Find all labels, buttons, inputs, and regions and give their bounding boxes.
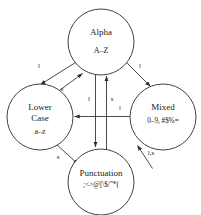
node-lower-case-title-line2: Case	[31, 113, 49, 123]
edge-punctuation-to-alpha: s	[107, 76, 114, 150]
edge-alpha-to-punctuation-label: l	[88, 95, 90, 103]
edge-alpha-to-lower-case-line	[41, 63, 76, 85]
edge-alpha-to-lower-case-label: l	[38, 62, 40, 70]
edge-alpha-to-lower-case: l	[38, 62, 75, 85]
node-alpha-charset: A–Z	[94, 46, 109, 55]
node-lower-case-charset: a–z	[34, 127, 46, 136]
edge-alpha-to-mixed-label: l	[139, 62, 141, 70]
edge-lower-case-to-punctuation-label: s	[57, 153, 60, 161]
node-lower-case[interactable]: Lower Case a–z	[7, 84, 73, 150]
edge-alpha-to-punctuation: l	[88, 75, 95, 147]
node-mixed-charset: 0–9, #$%=	[147, 117, 179, 125]
edge-punctuation-to-mixed-label: l,s	[148, 149, 155, 157]
edge-punctuation-to-mixed: l,s	[138, 146, 155, 169]
edge-mixed-to-lower-case-label: l	[119, 104, 121, 112]
node-alpha-title: Alpha	[90, 27, 112, 37]
node-punctuation[interactable]: Punctuation ;<>@[\$/"*(	[68, 149, 134, 215]
state-diagram-canvas: l s l l s l s	[0, 0, 201, 215]
node-mixed[interactable]: Mixed 0–9, #$%=	[130, 84, 196, 150]
edge-punctuation-to-alpha-label: s	[111, 95, 114, 103]
node-punctuation-charset: ;<>@[\$/"*(	[83, 181, 119, 189]
node-lower-case-title-line1: Lower	[28, 102, 52, 112]
state-diagram-svg: l s l l s l s	[0, 0, 201, 215]
node-mixed-title: Mixed	[151, 102, 175, 112]
node-alpha-circle[interactable]	[68, 9, 134, 75]
edge-alpha-to-mixed: l	[127, 62, 151, 87]
node-alpha[interactable]: Alpha A–Z	[68, 9, 134, 75]
node-punctuation-title: Punctuation	[80, 168, 123, 178]
edge-mixed-to-lower-case: l	[75, 104, 130, 117]
